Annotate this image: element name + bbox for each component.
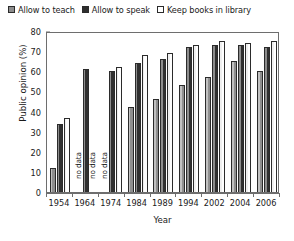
y-axis-tick-label: 0 [27, 189, 41, 197]
bar-teach [128, 107, 134, 192]
x-axis-title: Year [46, 215, 279, 225]
bar-chart: Allow to teach Allow to speak Keep books… [0, 0, 294, 241]
bar-group [202, 33, 228, 192]
x-axis-tick-mark [46, 193, 47, 197]
x-axis-tick-mark [72, 193, 73, 197]
bar-group [151, 33, 177, 192]
bar-group [47, 33, 73, 192]
bar-teach [231, 61, 237, 192]
bar-group: no datano data [73, 33, 99, 192]
x-axis-tick-mark [150, 193, 151, 197]
y-axis-tick-label: 10 [27, 169, 41, 177]
x-axis-tick-mark [124, 193, 125, 197]
bar-group [254, 33, 280, 192]
bar-group [176, 33, 202, 192]
bar-books [116, 67, 122, 192]
no-data-slot: no data [90, 33, 96, 192]
x-axis-line [46, 193, 279, 194]
legend-swatch-icon-books [157, 6, 164, 13]
no-data-label: no data [88, 152, 97, 179]
x-axis-tick-mark [279, 193, 280, 197]
legend-item-allow-to-speak: Allow to speak [82, 6, 150, 14]
legend-swatch-icon-teach [8, 6, 15, 13]
bar-speak [212, 45, 218, 192]
bar-speak [160, 59, 166, 192]
bar-speak [264, 47, 270, 192]
bar-teach [205, 77, 211, 192]
bar-teach [257, 71, 263, 192]
y-axis-tick-label: 80 [27, 28, 41, 36]
bar-speak [238, 45, 244, 192]
y-axis: 01020304050607080 [30, 25, 46, 200]
x-axis-tick-mark [201, 193, 202, 197]
no-data-slot: no data [76, 33, 82, 192]
bar-books [271, 41, 277, 192]
y-axis-tick-label: 60 [27, 68, 41, 76]
bar-speak [57, 124, 63, 192]
bars-container: no datano datano data [47, 33, 278, 192]
bar-group [228, 33, 254, 192]
chart-legend: Allow to teach Allow to speak Keep books… [8, 3, 288, 17]
y-axis-tick-label: 50 [27, 88, 41, 96]
y-axis-tick-label: 70 [27, 48, 41, 56]
x-axis-tick-mark [227, 193, 228, 197]
legend-label-books: Keep books in library [167, 6, 251, 14]
bar-speak [135, 63, 141, 192]
bar-teach [50, 168, 56, 192]
y-axis-tick-label: 40 [27, 108, 41, 116]
x-axis-tick-mark [253, 193, 254, 197]
legend-item-keep-books-in-library: Keep books in library [157, 6, 251, 14]
bar-books [193, 45, 199, 192]
no-data-slot: no data [102, 33, 108, 192]
bar-speak [109, 71, 115, 192]
bar-books [219, 41, 225, 192]
bar-speak [186, 47, 192, 192]
y-axis-tick-label: 30 [27, 129, 41, 137]
x-axis-tick-mark [175, 193, 176, 197]
bar-books [245, 43, 251, 192]
x-axis-tick-label: 2006 [250, 199, 282, 207]
legend-swatch-icon-speak [82, 6, 89, 13]
plot-area: no datano datano data [46, 32, 279, 193]
bar-teach [179, 85, 185, 192]
legend-label-speak: Allow to speak [92, 6, 150, 14]
bar-group: no data [99, 33, 125, 192]
bar-teach [153, 99, 159, 192]
bar-books [64, 118, 70, 192]
bar-books [142, 55, 148, 192]
bar-books [167, 53, 173, 192]
x-axis-tick-mark [98, 193, 99, 197]
bar-group [125, 33, 151, 192]
y-axis-tick-label: 20 [27, 149, 41, 157]
